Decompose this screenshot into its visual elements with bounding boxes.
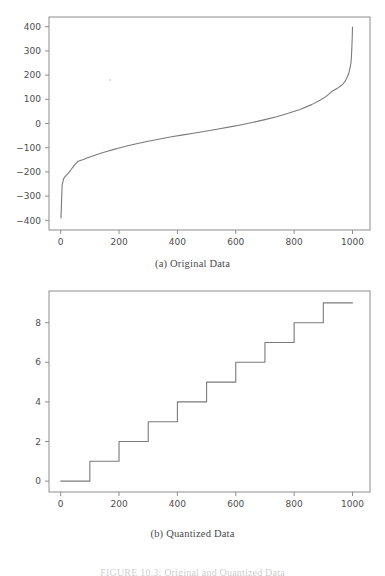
- svg-text:1000: 1000: [341, 237, 364, 247]
- svg-text:0: 0: [58, 237, 64, 247]
- svg-text:4: 4: [35, 397, 41, 407]
- scan-speck: [109, 79, 111, 81]
- svg-text:300: 300: [24, 46, 41, 56]
- svg-text:800: 800: [286, 237, 303, 247]
- svg-text:200: 200: [24, 70, 41, 80]
- svg-text:0: 0: [35, 476, 41, 486]
- svg-text:6: 6: [35, 357, 41, 367]
- figure-page: 02004006008001000−400−300−200−1000100200…: [0, 0, 385, 576]
- svg-text:0: 0: [58, 499, 64, 509]
- chart-original-data: 02004006008001000−400−300−200−1000100200…: [0, 0, 385, 250]
- svg-text:2: 2: [35, 437, 41, 447]
- svg-text:−200: −200: [16, 167, 41, 177]
- subcaption-original-data: (a) Original Data: [0, 258, 385, 269]
- svg-text:200: 200: [110, 237, 127, 247]
- svg-text:400: 400: [24, 22, 41, 32]
- figure-caption: FIGURE 10.3: Original and Quantized Data: [0, 566, 385, 576]
- chart-quantized-data: 0200400600800100002468: [0, 285, 385, 527]
- subcaption-quantized-data: (b) Quantized Data: [0, 528, 385, 539]
- subfigure-quantized-data: 0200400600800100002468: [0, 285, 385, 550]
- svg-text:100: 100: [24, 94, 41, 104]
- svg-text:400: 400: [169, 237, 186, 247]
- svg-text:0: 0: [35, 119, 41, 129]
- svg-text:−100: −100: [16, 143, 41, 153]
- svg-text:200: 200: [110, 499, 127, 509]
- svg-text:8: 8: [35, 318, 41, 328]
- svg-text:400: 400: [169, 499, 186, 509]
- svg-text:−400: −400: [16, 216, 41, 226]
- subfigure-original-data: 02004006008001000−400−300−200−1000100200…: [0, 0, 385, 285]
- svg-text:600: 600: [227, 499, 244, 509]
- svg-text:−300: −300: [16, 191, 41, 201]
- svg-text:1000: 1000: [341, 499, 364, 509]
- svg-text:600: 600: [227, 237, 244, 247]
- original-data-plot-svg: 02004006008001000−400−300−200−1000100200…: [0, 0, 385, 250]
- quantized-data-plot-svg: 0200400600800100002468: [0, 285, 385, 527]
- svg-text:800: 800: [286, 499, 303, 509]
